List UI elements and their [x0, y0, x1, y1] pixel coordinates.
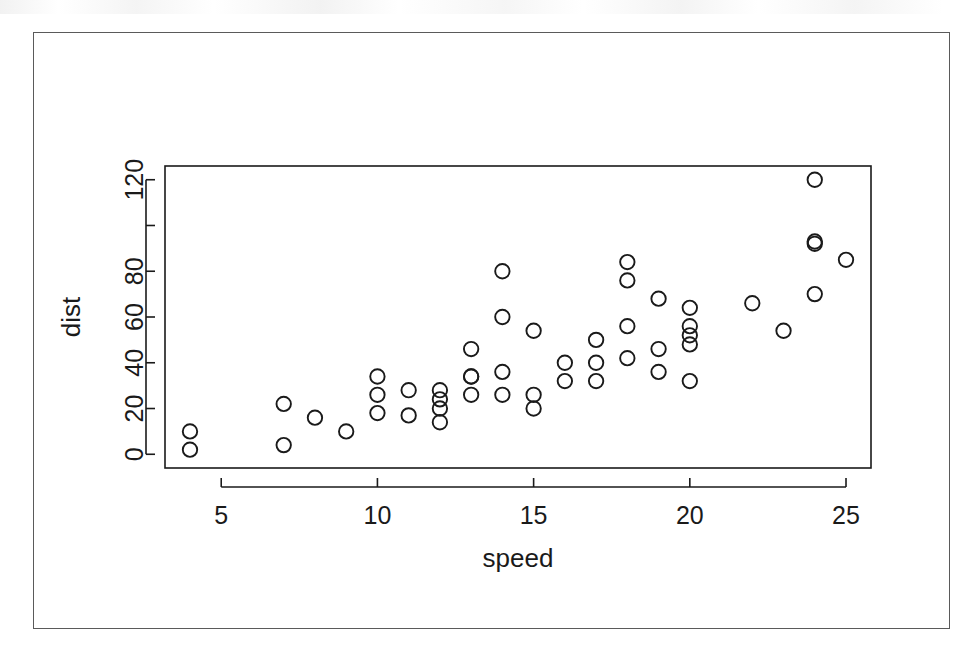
x-tick-label: 10	[364, 501, 392, 529]
data-point	[620, 273, 634, 287]
data-point	[401, 408, 415, 422]
data-point	[620, 255, 634, 269]
data-point	[808, 173, 822, 187]
data-point	[495, 310, 509, 324]
data-point	[183, 442, 197, 456]
data-point	[277, 438, 291, 452]
data-point	[464, 342, 478, 356]
scatter-plot: 020406080120dist510152025speed	[34, 33, 948, 627]
x-tick-label: 5	[214, 501, 228, 529]
data-point	[495, 264, 509, 278]
data-point	[589, 356, 603, 370]
data-point	[495, 388, 509, 402]
data-point	[651, 342, 665, 356]
data-point	[526, 388, 540, 402]
data-point	[683, 319, 697, 333]
data-point	[651, 291, 665, 305]
x-axis-title: speed	[483, 543, 554, 573]
data-point	[339, 424, 353, 438]
scan-artifact	[0, 0, 972, 14]
y-tick-label: 80	[120, 257, 148, 285]
data-point	[370, 369, 384, 383]
data-point	[683, 374, 697, 388]
data-point	[183, 424, 197, 438]
y-tick-label: 0	[120, 447, 148, 461]
y-tick-label: 60	[120, 303, 148, 331]
data-point	[558, 356, 572, 370]
y-axis: 020406080120	[120, 159, 155, 461]
data-point	[401, 383, 415, 397]
data-point	[776, 324, 790, 338]
data-point	[808, 287, 822, 301]
data-point	[589, 374, 603, 388]
data-point	[620, 319, 634, 333]
data-point	[683, 301, 697, 315]
plot-box	[165, 166, 871, 468]
y-tick-label: 120	[120, 159, 148, 201]
screenshot-root: 020406080120dist510152025speed	[0, 0, 972, 659]
y-tick-label: 20	[120, 395, 148, 423]
x-axis: 510152025	[214, 478, 860, 529]
data-point	[464, 388, 478, 402]
x-tick-label: 15	[520, 501, 548, 529]
y-tick-label: 40	[120, 349, 148, 377]
data-point	[839, 253, 853, 267]
x-tick-label: 25	[832, 501, 860, 529]
data-points	[183, 173, 853, 457]
data-point	[433, 415, 447, 429]
data-point	[495, 365, 509, 379]
data-point	[526, 401, 540, 415]
data-point	[464, 369, 478, 383]
data-point	[558, 374, 572, 388]
figure-frame: 020406080120dist510152025speed	[33, 32, 950, 629]
x-tick-label: 20	[676, 501, 704, 529]
y-axis-title: dist	[56, 296, 86, 337]
data-point	[433, 383, 447, 397]
data-point	[308, 410, 322, 424]
data-point	[370, 388, 384, 402]
data-point	[745, 296, 759, 310]
data-point	[620, 351, 634, 365]
data-point	[526, 324, 540, 338]
data-point	[589, 333, 603, 347]
data-point	[370, 406, 384, 420]
data-point	[651, 365, 665, 379]
data-point	[277, 397, 291, 411]
